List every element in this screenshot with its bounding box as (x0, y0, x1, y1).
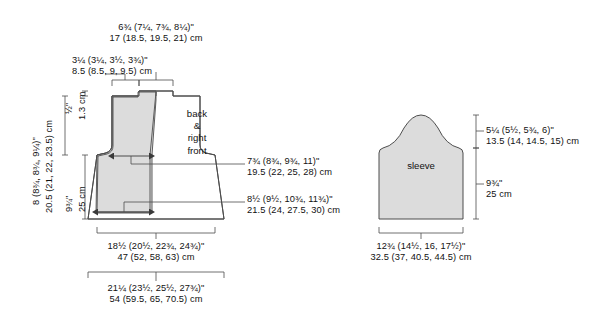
body-length-imperial: 9¾" (64, 195, 75, 212)
neck-width-label: 6¾ (7¼, 7¾, 8¼)" 17 (18.5, 19.5, 21) cm (76, 22, 236, 45)
neck-width-metric: 17 (18.5, 19.5, 21) cm (76, 33, 236, 44)
sleeve-width-label: 12¾ (14½, 16, 17½)" 32.5 (37, 40.5, 44.5… (341, 241, 501, 264)
neck-depth-imperial: ½" (64, 103, 75, 114)
sleeve-cap-height-imperial: 5¼ (5½, 5¾, 6)" (486, 125, 579, 136)
schematic-diagram: 6¾ (7¼, 7¾, 8¼)" 17 (18.5, 19.5, 21) cm … (0, 0, 602, 314)
body-piece-label: back & right front (162, 108, 232, 157)
shoulder-width-metric: 8.5 (8.5, 9, 9.5) cm (72, 66, 152, 77)
shoulder-width-label: 3¼ (3¼, 3½, 3¾)" 8.5 (8.5, 9, 9.5) cm (72, 55, 152, 78)
sleeve-width-imperial: 12¾ (14½, 16, 17½)" (341, 241, 501, 252)
upper-body-width-label: 18½ (20½, 22¾, 24¾)" 47 (52, 58, 63) cm (76, 241, 236, 264)
neck-width-bracket (139, 80, 173, 86)
lower-front-width-metric: 21.5 (24, 27.5, 30) cm (247, 205, 340, 216)
sleeve-length-metric: 25 cm (486, 189, 512, 200)
neck-depth-metric: 1.3 cm (77, 92, 88, 121)
body-piece-line4: front (162, 145, 232, 157)
left-front-panel (97, 92, 156, 212)
lower-front-width-imperial: 8½ (9½, 10¾, 11¾)" (247, 194, 340, 205)
lower-body-width-metric: 54 (59.5, 65, 70.5) cm (76, 294, 236, 305)
body-piece-line2: & (162, 120, 232, 132)
shoulder-width-bracket (112, 80, 139, 86)
sleeve-width-metric: 32.5 (37, 40.5, 44.5) cm (341, 252, 501, 263)
body-length-metric: 25 cm (77, 186, 88, 212)
upper-front-width-metric: 19.5 (22, 25, 28) cm (247, 167, 332, 178)
armhole-depth-metric: 20.5 (21, 22, 23.5) cm (44, 120, 55, 213)
sleeve-piece-label: sleeve (391, 160, 451, 172)
armhole-depth-imperial: 8 (8¾, 8¾, 9¼)" (31, 137, 42, 205)
upper-front-width-label: 7¾ (8¾, 9¾, 11)" 19.5 (22, 25, 28) cm (247, 156, 332, 179)
sleeve-length-bracket (473, 148, 479, 219)
lower-front-width-label: 8½ (9½, 10¾, 11¾)" 21.5 (24, 27.5, 30) c… (247, 194, 340, 217)
lower-body-width-imperial: 21¼ (23½, 25½, 27¾)" (76, 283, 236, 294)
sleeve-cap-height-label: 5¼ (5½, 5¾, 6)" 13.5 (14, 14.5, 15) cm (486, 125, 579, 148)
neck-width-imperial: 6¾ (7¼, 7¾, 8¼)" (76, 22, 236, 33)
body-piece-line1: back (162, 108, 232, 120)
sleeve-width-bracket (379, 227, 463, 233)
body-piece-line3: right (162, 132, 232, 144)
upper-front-width-imperial: 7¾ (8¾, 9¾, 11)" (247, 156, 332, 167)
lower-body-width-label: 21¼ (23½, 25½, 27¾)" 54 (59.5, 65, 70.5)… (76, 283, 236, 306)
sleeve-length-imperial: 9¾" (486, 178, 512, 189)
sleeve-cap-height-bracket (473, 115, 479, 148)
sleeve-length-label: 9¾" 25 cm (486, 178, 512, 201)
shoulder-width-imperial: 3¼ (3¼, 3½, 3¾)" (72, 55, 152, 66)
upper-body-width-metric: 47 (52, 58, 63) cm (76, 252, 236, 263)
upper-body-width-bracket (97, 227, 215, 233)
upper-body-width-imperial: 18½ (20½, 22¾, 24¾)" (76, 241, 236, 252)
sleeve-cap-height-metric: 13.5 (14, 14.5, 15) cm (486, 136, 579, 147)
